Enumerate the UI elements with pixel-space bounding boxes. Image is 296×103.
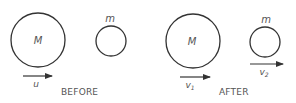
- collision-diagram: M m u BEFORE M m v1 v2 AFTER: [0, 0, 296, 103]
- before-panel: M m u BEFORE: [11, 13, 126, 97]
- large-mass-label-before: M: [34, 35, 43, 46]
- diagram-svg: M m u BEFORE M m v1 v2 AFTER: [0, 0, 296, 103]
- velocity-label-v2: v2: [259, 67, 268, 78]
- small-mass-label-after: m: [261, 14, 271, 25]
- before-caption: BEFORE: [61, 87, 98, 97]
- velocity-label-u: u: [33, 79, 39, 89]
- after-panel: M m v1 v2 AFTER: [166, 14, 283, 97]
- small-mass-label-before: m: [105, 13, 115, 24]
- velocity-label-v1: v1: [185, 80, 194, 91]
- large-mass-label-after: M: [188, 36, 197, 47]
- small-mass-circle-after: [250, 27, 280, 57]
- after-caption: AFTER: [219, 87, 249, 97]
- small-mass-circle-before: [96, 26, 126, 56]
